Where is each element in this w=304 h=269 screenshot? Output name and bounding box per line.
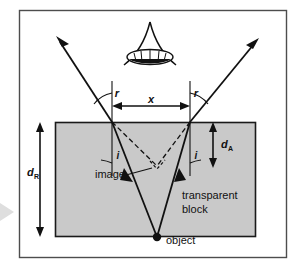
label-depth-apparent-sub: A	[228, 145, 233, 152]
object-point	[153, 233, 161, 241]
label-angle-i-right: i	[195, 150, 198, 161]
label-depth-real-sub: R	[34, 173, 39, 180]
label-angle-r-right: r	[194, 87, 199, 99]
label-angle-i-left: i	[117, 150, 120, 161]
label-image: image	[95, 168, 125, 180]
label-depth-apparent-d: d	[221, 138, 228, 150]
label-block-line1: transparent	[182, 189, 238, 201]
label-depth-real-d: d	[27, 166, 34, 178]
label-separation-x: x	[147, 93, 155, 105]
label-block-line2: block	[182, 203, 208, 215]
figure-root: r r x i i d A d R image object transpare…	[0, 0, 304, 269]
ray-diagram-svg: r r x i i d A d R image object transpare…	[0, 0, 304, 269]
label-object: object	[166, 234, 195, 246]
label-angle-r-left: r	[115, 87, 120, 99]
